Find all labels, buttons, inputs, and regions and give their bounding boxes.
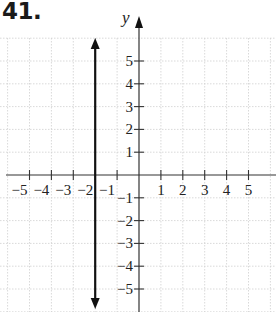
y-tick-label: 5 xyxy=(126,53,134,69)
y-tick-label: −4 xyxy=(117,258,133,274)
x-tick-label: −2 xyxy=(77,182,93,198)
arrow-down-icon xyxy=(91,298,100,309)
y-axis-arrow-icon xyxy=(135,16,143,28)
x-tick-label: 4 xyxy=(223,182,231,198)
x-tick-label: −4 xyxy=(33,182,49,198)
y-tick-label: −3 xyxy=(117,235,133,251)
y-tick-label: 3 xyxy=(126,99,134,115)
x-tick-label: −1 xyxy=(99,182,115,198)
graph-series xyxy=(91,38,100,309)
y-tick-label: 2 xyxy=(126,121,134,137)
y-tick-label: −1 xyxy=(117,190,133,206)
x-tick-label: 3 xyxy=(201,182,209,198)
x-tick-label: −5 xyxy=(12,182,28,198)
x-tick-label: 5 xyxy=(245,182,253,198)
y-tick-label: 4 xyxy=(126,76,134,92)
x-tick-label: 2 xyxy=(179,182,187,198)
y-tick-label: 1 xyxy=(126,144,134,160)
arrow-up-icon xyxy=(91,38,100,49)
y-tick-label: −2 xyxy=(117,213,133,229)
y-axis-label: y xyxy=(120,8,130,27)
coordinate-plane: −5−4−3−2−11234554321−1−2−3−4−5 y xyxy=(0,0,276,312)
axes xyxy=(6,16,276,312)
x-tick-label: 1 xyxy=(157,182,165,198)
x-tick-label: −3 xyxy=(55,182,71,198)
y-tick-label: −5 xyxy=(117,281,133,297)
